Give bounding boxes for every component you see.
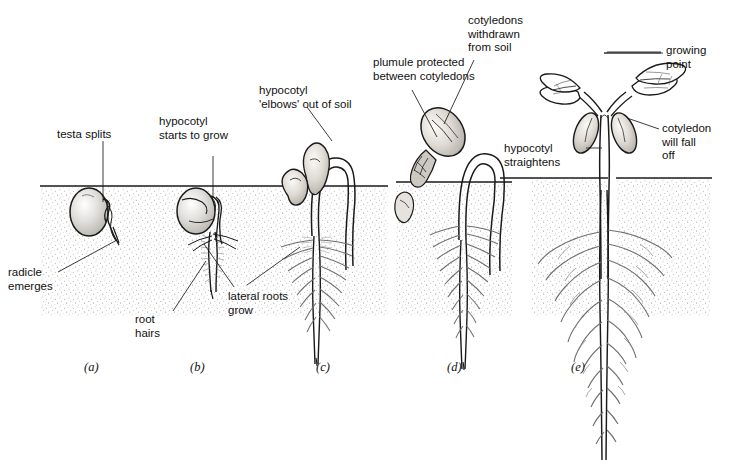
label-hypocotyl-elbows-out-of-soil: hypocotyl 'elbows' out of soil [259,84,352,111]
label-root-hairs: root hairs [135,313,160,340]
label-cotyledons-withdrawn: cotyledons withdrawn from soil [468,14,523,55]
label-lateral-roots-grow: lateral roots grow [228,290,288,317]
soil-layer-e [500,178,712,316]
stage-caption-c: (c) [316,360,330,375]
label-cotyledon-will-fall-off: cotyledon will fall off [662,122,711,163]
stage-caption-e: (e) [571,360,585,375]
label-testa-splits: testa splits [57,128,111,142]
label-radicle-emerges: radicle emerges [8,266,53,293]
label-growing-point: growing point [666,44,706,71]
label-plumule-protected: plumule protected between cotyledons [373,56,475,83]
stage-caption-d: (d) [447,360,462,375]
stage-caption-a: (a) [84,360,99,375]
label-hypocotyl-starts-to-grow: hypocotyl starts to grow [159,115,228,142]
germination-diagram: testa splits radicle emerges hypocotyl s… [0,0,740,464]
label-hypocotyl-straightens: hypocotyl straightens [504,142,560,169]
germination-artwork [0,0,740,464]
stage-caption-b: (b) [190,360,205,375]
